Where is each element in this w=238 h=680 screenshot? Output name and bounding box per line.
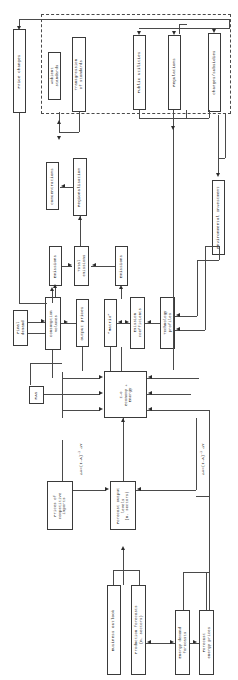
- node-consumption-volumes[interactable]: Consumption volumes: [45, 297, 61, 350]
- node-regulations[interactable]: Regulations: [168, 35, 181, 110]
- annotation-text: ΔX=(I-A)-1 ΔY: [77, 431, 83, 487]
- arrow-head: [99, 407, 103, 411]
- edge-line: [123, 418, 124, 481]
- edge-line: [145, 323, 160, 324]
- node-label: Production forecasts (n. sectors): [134, 606, 143, 655]
- edge-line: [62, 440, 63, 481]
- node-environmental-investment[interactable]: Environmental Investment: [212, 180, 225, 255]
- edge-line: [147, 378, 199, 379]
- diagram-canvas: Price changes Ambient standards Transgre…: [0, 0, 238, 680]
- edge-line: [62, 378, 100, 379]
- edge-line: [218, 115, 219, 175]
- node-concentrations[interactable]: Concentrations: [46, 162, 59, 210]
- edge-line: [197, 260, 198, 316]
- arrow-head: [176, 327, 180, 331]
- arrow-head: [119, 285, 123, 289]
- arrow-head: [99, 391, 103, 395]
- edge-line: [229, 19, 230, 29]
- arrow-head: [137, 31, 141, 35]
- node-emissions-right[interactable]: Emissions: [115, 246, 128, 286]
- edge-line: [62, 266, 72, 267]
- node-total-emissions[interactable]: Total emissions: [74, 246, 89, 286]
- arrow-head: [41, 319, 45, 323]
- edge-line: [139, 118, 209, 119]
- edge-line: [28, 333, 45, 334]
- node-label: Emissions: [53, 254, 58, 277]
- node-label: Ambient standards: [50, 65, 59, 87]
- node-label: Public utilities: [137, 52, 142, 94]
- node-label: Final demand: [16, 321, 25, 336]
- arrow-head: [137, 487, 141, 491]
- node-business-outlook[interactable]: Business outlook: [107, 585, 121, 675]
- edge-line: [52, 350, 53, 378]
- edge-line: [196, 496, 209, 497]
- arrow-head: [170, 640, 174, 644]
- node-label: Output prices: [80, 306, 85, 340]
- edge-line: [55, 287, 56, 297]
- node-final-demand[interactable]: Final demand: [13, 310, 28, 346]
- node-label: “Matrix”: [108, 313, 113, 334]
- node-prices-competitive-imports[interactable]: Prices of competitive imports: [47, 481, 73, 530]
- node-energy-demand-forecasts[interactable]: Energy demand forecasts: [175, 610, 190, 675]
- node-label: Energy demand forecasts: [178, 627, 187, 659]
- edge-line: [113, 570, 139, 571]
- edge-line: [183, 572, 184, 610]
- arrow-head: [57, 136, 61, 140]
- edge-line: [209, 110, 210, 118]
- edge-line: [121, 347, 122, 371]
- arrow-head: [148, 375, 152, 379]
- edge-line: [44, 394, 100, 395]
- node-label: Regionalisation: [78, 167, 83, 206]
- edge-line: [73, 490, 106, 491]
- edge-line: [52, 291, 53, 303]
- node-public-utilities[interactable]: Public utilities: [133, 35, 146, 110]
- node-production-forecasts[interactable]: Production forecasts (n. sectors): [131, 585, 146, 675]
- arrow-head: [148, 391, 152, 395]
- annotation-delta-x-right: ΔX=(I-A)-1 ΔY: [196, 432, 206, 488]
- node-emissions-left[interactable]: Emissions: [49, 246, 62, 286]
- arrow-head: [121, 546, 125, 550]
- arrow-head: [53, 284, 57, 288]
- node-emission-coefficients[interactable]: Emission coefficients: [130, 297, 145, 349]
- edge-line: [205, 246, 219, 247]
- node-io-economy-energy[interactable]: I-O Economy + Energy: [104, 371, 147, 418]
- node-label: Business outlook: [112, 609, 117, 651]
- edge-line: [19, 19, 229, 20]
- node-regionalisation[interactable]: Regionalisation: [73, 158, 87, 216]
- node-label: I-O Economy + Energy: [119, 384, 133, 406]
- edge-line: [179, 24, 187, 25]
- node-matrix[interactable]: “Matrix”: [104, 299, 117, 347]
- node-charges-subsidies[interactable]: Charges/subsidies: [208, 33, 221, 112]
- edge-line: [190, 643, 199, 644]
- node-price-changes[interactable]: Price changes: [13, 29, 26, 113]
- node-label: Transgression of standards: [74, 59, 83, 91]
- edge-line: [197, 260, 219, 261]
- arrow-head: [105, 487, 109, 491]
- edge-line: [139, 110, 140, 118]
- node-transgression-of-standards[interactable]: Transgression of standards: [72, 37, 86, 112]
- edge-line: [30, 363, 31, 385]
- arrow-head: [148, 407, 152, 411]
- edge-line: [123, 548, 124, 585]
- arrow-head: [216, 173, 220, 177]
- node-output-prices[interactable]: Output prices: [76, 299, 89, 347]
- node-ras[interactable]: RAS: [29, 386, 44, 404]
- node-label: Prices of competitive imports: [53, 492, 67, 519]
- node-label: Environmental Investment: [216, 186, 221, 249]
- edge-line: [209, 490, 210, 610]
- annotation-text: ΔX=(I-A)-1 ΔY: [199, 431, 205, 487]
- arrow-head: [121, 418, 125, 422]
- node-label: Total emissions: [77, 255, 86, 277]
- node-ambient-standards[interactable]: Ambient standards: [48, 52, 61, 100]
- edge-line: [219, 246, 220, 260]
- edge-line: [173, 130, 174, 370]
- edge-line: [61, 323, 76, 324]
- node-forecast-energy-prices[interactable]: Forecast energy prices: [199, 610, 214, 675]
- edge-line: [225, 113, 226, 158]
- node-forecast-output-levels[interactable]: Forecast output levels (n. sectors): [110, 481, 136, 530]
- node-label: Consumption volumes: [48, 310, 57, 337]
- edge-line: [117, 323, 130, 324]
- node-label: Regulations: [172, 58, 177, 87]
- edge-line: [59, 132, 79, 133]
- arrow-head: [176, 313, 180, 317]
